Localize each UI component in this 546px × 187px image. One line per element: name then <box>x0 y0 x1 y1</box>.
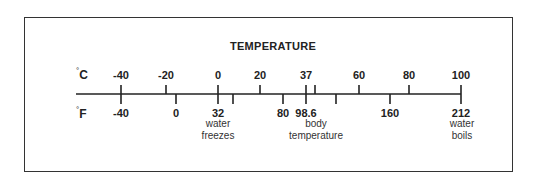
temperature-scale <box>0 0 546 187</box>
celsius-tick-label: 37 <box>300 70 312 81</box>
landmark-note-line2: boils <box>450 130 474 142</box>
landmark-note-line1: water <box>202 118 235 130</box>
fahrenheit-tick-label: 80 <box>277 108 289 119</box>
landmark-note-line1: water <box>450 118 474 130</box>
celsius-tick-label: 0 <box>215 70 221 81</box>
celsius-tick-label: 100 <box>452 70 470 81</box>
celsius-tick-label: -40 <box>113 70 129 81</box>
fahrenheit-tick-label: -40 <box>113 108 129 119</box>
celsius-tick-label: 60 <box>353 70 365 81</box>
landmark-note-line2: temperature <box>289 130 343 142</box>
celsius-tick-label: -20 <box>158 70 174 81</box>
landmark-note-line1: body <box>289 118 343 130</box>
landmark-note: bodytemperature <box>289 118 343 142</box>
landmark-note: waterfreezes <box>202 118 235 142</box>
celsius-tick-label: 20 <box>254 70 266 81</box>
fahrenheit-tick-label: 160 <box>381 108 399 119</box>
fahrenheit-ticks <box>121 94 461 104</box>
landmark-note-line2: freezes <box>202 130 235 142</box>
celsius-ticks <box>121 85 461 94</box>
fahrenheit-tick-label: 0 <box>173 108 179 119</box>
landmark-note: waterboils <box>450 118 474 142</box>
celsius-tick-label: 80 <box>403 70 415 81</box>
